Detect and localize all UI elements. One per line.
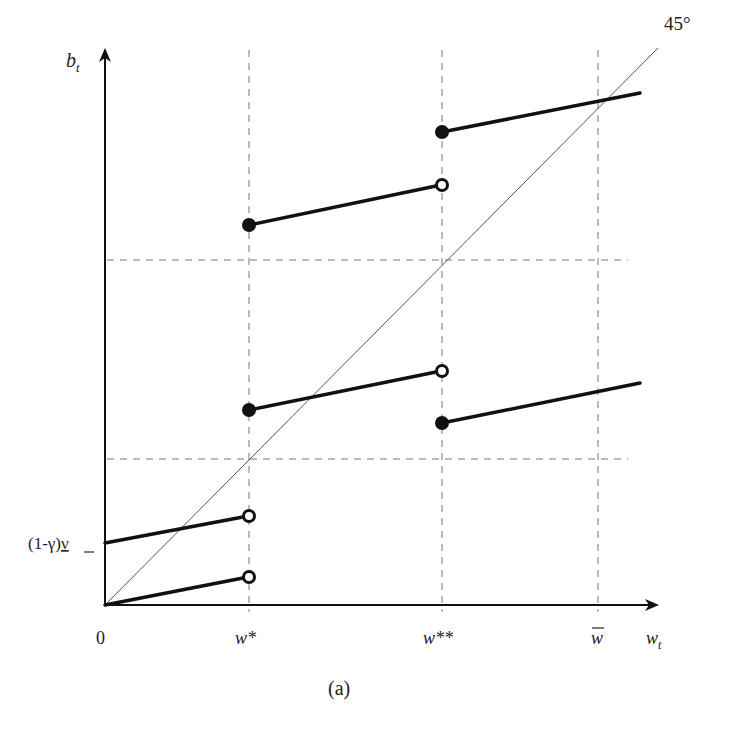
figure-diagram: bt 45° (1-γ)ν 0 w* w** w wt (a) <box>0 0 736 729</box>
y-axis-label: bt <box>66 49 80 75</box>
segment-low-intercept <box>105 517 243 543</box>
open-dot <box>244 572 255 583</box>
origin-label: 0 <box>96 628 105 648</box>
x-tick-w-bar: w <box>591 628 603 648</box>
open-dot <box>244 511 255 522</box>
dashed-horizontal-guides <box>107 260 628 459</box>
y-intercept-label: (1-γ)ν <box>28 534 69 553</box>
open-endpoints <box>244 180 448 583</box>
segment-high-upper <box>442 93 640 132</box>
segment-mid-upper <box>249 186 436 225</box>
filled-dot <box>435 125 449 139</box>
segment-mid-lower <box>249 372 436 410</box>
policy-segments <box>105 93 640 605</box>
filled-dot <box>242 403 256 417</box>
angle-label: 45° <box>664 13 691 34</box>
dashed-vertical-guides <box>249 50 598 612</box>
x-tick-w-double-star: w** <box>423 628 453 648</box>
filled-dot <box>242 218 256 232</box>
segment-low-zero <box>105 578 243 605</box>
x-tick-w-star: w* <box>235 628 256 648</box>
figure-caption: (a) <box>328 677 350 700</box>
filled-dot <box>435 416 449 430</box>
x-axis-label: wt <box>646 628 662 652</box>
open-dot <box>437 180 448 191</box>
diagonal-45-line <box>105 48 658 605</box>
open-dot <box>437 366 448 377</box>
segment-high-lower <box>442 383 640 423</box>
filled-endpoints <box>242 125 449 430</box>
